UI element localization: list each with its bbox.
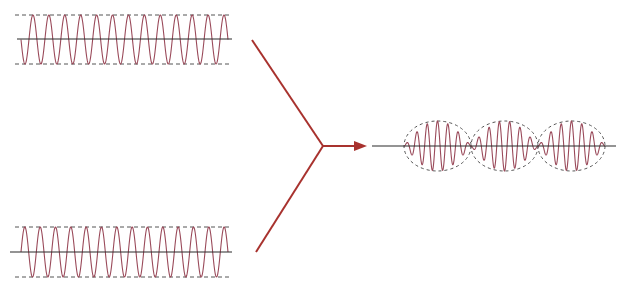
input-wave-2 — [10, 227, 232, 277]
arrow-head-icon — [354, 141, 367, 151]
output-beat-wave — [372, 121, 616, 171]
beat-diagram: Superposition of two waves producing bea… — [0, 0, 626, 288]
superposition-combiner — [252, 40, 367, 252]
lower-combine-line — [256, 146, 323, 252]
upper-combine-line — [252, 40, 323, 146]
diagram-canvas — [0, 0, 626, 288]
input-wave-1 — [15, 15, 232, 64]
